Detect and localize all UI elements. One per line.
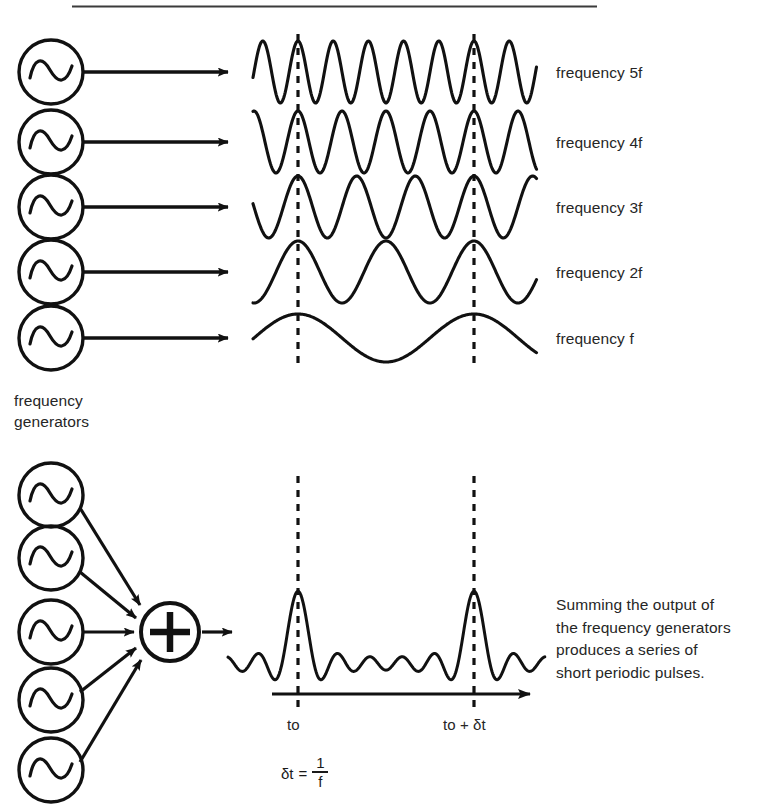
waveform-label-2f: frequency 2f (556, 264, 643, 282)
generator-icon-5f (19, 40, 83, 104)
generator-icon-2f (19, 240, 83, 304)
sum-generator-icon-2 (19, 526, 83, 590)
formula-numerator: 1 (316, 755, 324, 770)
formula-lhs: δt (281, 765, 294, 782)
diagram-svg (0, 0, 767, 810)
waveform-path-5f (253, 41, 537, 103)
formula-fraction: 1 f (312, 755, 328, 789)
summing-description-text: Summing the output of the frequency gene… (556, 594, 731, 684)
sum-generator-icon-1 (19, 463, 83, 527)
waveform-label-4f: frequency 4f (556, 134, 643, 152)
formula-denominator: f (318, 774, 322, 789)
time-tick-label-t0: to (287, 716, 300, 733)
waveform-path-2f (253, 241, 537, 303)
waveform-path-f (253, 314, 537, 362)
converging-arrow-5 (80, 660, 141, 762)
converging-arrow-2 (80, 572, 136, 618)
time-tick-label-t0-dt: to + δt (443, 716, 486, 733)
period-formula: δt = 1 f (281, 756, 328, 790)
generator-icon-3f (19, 175, 83, 239)
harmonic-waveforms (253, 41, 537, 362)
sum-generator-icon-4 (19, 668, 83, 732)
generator-icon-f (19, 306, 83, 370)
waveform-path-4f (253, 111, 537, 173)
converging-arrow-1 (80, 508, 140, 605)
figure-canvas: frequency 5f frequency 4f frequency 3f f… (0, 0, 767, 810)
waveform-path-3f (253, 176, 537, 238)
sum-generator-icon-5 (19, 738, 83, 802)
pulse-train-path (228, 591, 545, 679)
frequency-generators-label: frequency generators (14, 390, 89, 432)
summed-pulse-train-waveform (228, 591, 545, 679)
waveform-label-f: frequency f (556, 330, 634, 348)
plus-circle-icon (141, 603, 199, 661)
waveform-label-5f: frequency 5f (556, 64, 643, 82)
waveform-label-3f: frequency 3f (556, 199, 643, 217)
generator-icon-4f (19, 110, 83, 174)
formula-equals: = (299, 765, 308, 782)
sum-generator-icon-3 (19, 600, 83, 664)
